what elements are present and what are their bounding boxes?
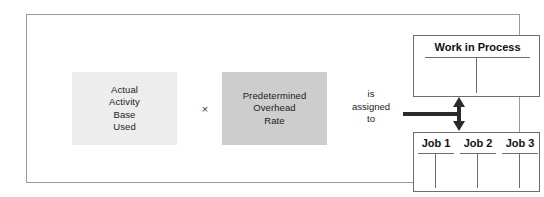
t-account-rule: [460, 153, 496, 154]
diagram-outer-frame: Actual Activity Base Used × Predetermine…: [26, 14, 520, 183]
t-account-title-job-3: Job 3: [499, 137, 541, 150]
diagram-canvas: Actual Activity Base Used × Predetermine…: [0, 0, 544, 197]
t-account-rule: [502, 153, 538, 154]
t-account-stem: [435, 153, 436, 188]
t-account-stem: [519, 153, 520, 188]
multiplication-operator-icon: ×: [190, 100, 220, 118]
double-headed-arrow-icon: [451, 97, 467, 131]
t-account-title-job-2: Job 2: [457, 137, 499, 150]
operand-text-group: Actual Activity Base Used: [109, 84, 140, 133]
t-account-jobs-group: Job 1 Job 2 Job 3: [413, 132, 540, 192]
t-account-job-3: Job 3: [499, 133, 541, 191]
t-account-rule: [418, 153, 454, 154]
operand-line: Activity: [109, 96, 140, 108]
assigned-line: to: [340, 113, 402, 126]
t-account-title-job-1: Job 1: [415, 137, 457, 150]
operand-box-actual-activity-base-used: Actual Activity Base Used: [72, 72, 177, 145]
operand-text-group: Predetermined Overhead Rate: [243, 90, 307, 127]
t-account-work-in-process: Work in Process: [413, 35, 540, 97]
operand-line: Base: [109, 109, 140, 121]
t-account-stem: [476, 57, 477, 93]
is-assigned-to-label: is assigned to: [340, 88, 402, 126]
operand-line: Predetermined: [243, 90, 307, 102]
assigned-line: assigned: [340, 101, 402, 114]
t-account-title-work-in-process: Work in Process: [414, 41, 541, 54]
assigned-line: is: [340, 88, 402, 101]
operand-line: Actual: [109, 84, 140, 96]
operand-line: Overhead: [243, 102, 307, 114]
t-account-stem: [477, 153, 478, 188]
t-account-job-1: Job 1: [415, 133, 457, 191]
operand-line: Used: [109, 121, 140, 133]
operand-line: Rate: [243, 115, 307, 127]
t-account-rule: [425, 57, 530, 58]
t-account-job-2: Job 2: [457, 133, 499, 191]
operand-box-predetermined-overhead-rate: Predetermined Overhead Rate: [222, 72, 327, 145]
